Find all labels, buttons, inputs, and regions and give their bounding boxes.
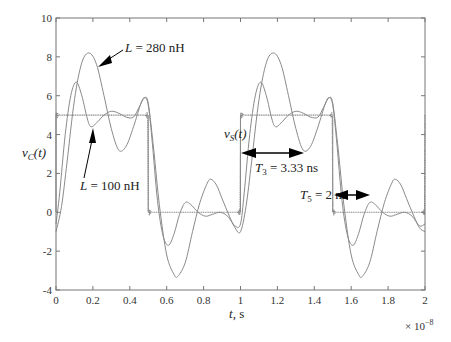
- chart: 00.20.40.60.811.21.41.61.82-4-20246810 v…: [0, 0, 451, 342]
- y-tick-label: 0: [47, 206, 53, 218]
- y-tick-label: -2: [43, 245, 52, 257]
- y-tick-label: 6: [47, 90, 53, 102]
- y-axis-label: vC(t): [22, 145, 46, 162]
- t5-arrow-right-icon: [356, 190, 370, 200]
- y-tick-label: 8: [47, 51, 53, 63]
- arrow-l280-head-icon: [98, 55, 112, 67]
- y-tick-label: -4: [43, 284, 53, 296]
- x-tick-label: 1.2: [271, 294, 285, 306]
- annotation-l280: L = 280 nH: [124, 40, 185, 55]
- x-tick-label: 0.6: [160, 294, 174, 306]
- y-tick-label: 10: [41, 12, 53, 24]
- x-tick-label: 1.8: [381, 294, 395, 306]
- x-tick-label: 1.4: [307, 294, 321, 306]
- x-tick-label: 0.8: [197, 294, 211, 306]
- x-multiplier: × 10−8: [405, 318, 433, 332]
- t3-arrow-right-icon: [289, 148, 304, 158]
- arrow-l100-head-icon: [89, 128, 96, 143]
- x-tick-label: 1: [238, 294, 244, 306]
- x-tick-label: 0.4: [123, 294, 137, 306]
- annotation-vs: vS(t): [224, 126, 247, 143]
- x-tick-label: 0: [53, 294, 59, 306]
- x-tick-label: 0.2: [86, 294, 100, 306]
- annotation-l100: L = 100 nH: [79, 178, 140, 193]
- arrow-l100-line: [84, 140, 92, 178]
- x-axis-label: t, s: [229, 306, 244, 321]
- x-tick-label: 1.6: [344, 294, 358, 306]
- x-tick-label: 2: [422, 294, 428, 306]
- y-tick-label: 2: [47, 167, 53, 179]
- y-tick-label: 4: [47, 129, 53, 141]
- curves-layer: [56, 53, 425, 278]
- annotation-t3: T3 = 3.33 ns: [255, 160, 318, 177]
